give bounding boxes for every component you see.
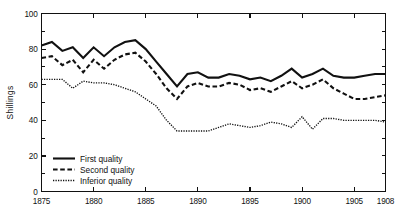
x-tick-label: 1875: [33, 197, 51, 206]
x-tick-label: 1895: [241, 197, 259, 206]
legend-label: First quality: [80, 154, 123, 164]
line-chart: 020406080100 187518801885189018951900190…: [0, 0, 404, 219]
x-tick-label: 1908: [377, 197, 395, 206]
y-tick-label: 40: [29, 116, 38, 125]
chart-figure: 020406080100 187518801885189018951900190…: [0, 0, 404, 219]
legend-label: Inferior quality: [80, 176, 133, 186]
y-tick-label: 100: [24, 10, 38, 19]
y-tick-label: 20: [29, 152, 38, 161]
y-tick-label: 80: [29, 45, 38, 54]
x-tick-label: 1905: [346, 197, 364, 206]
x-tick-label: 1885: [137, 197, 155, 206]
y-tick-label: 60: [29, 81, 38, 90]
y-tick-label: 0: [33, 188, 38, 197]
x-tick-label: 1890: [189, 197, 207, 206]
x-tick-label: 1880: [85, 197, 103, 206]
x-tick-label: 1900: [293, 197, 311, 206]
legend-label: Second quality: [80, 165, 135, 175]
chart-background: [0, 0, 404, 219]
y-axis-label: Shillings: [5, 86, 15, 120]
